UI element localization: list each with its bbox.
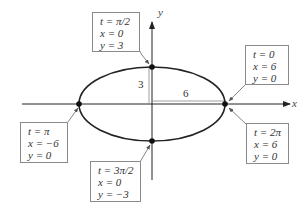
annotation-x: x = 6	[254, 138, 288, 150]
annotation-x: x = 0	[98, 176, 140, 188]
annotation-t: t = π/2	[100, 15, 139, 27]
annotation-y: y = 0	[253, 72, 288, 84]
leader-bottom	[140, 145, 150, 162]
leader-top	[139, 50, 149, 64]
annotation-x: x = 0	[100, 27, 139, 39]
point-bottom	[149, 138, 155, 144]
diagram-canvas	[0, 0, 302, 215]
annotation-t: t = 2π	[254, 126, 288, 138]
point-top	[149, 64, 155, 70]
leader-right0	[229, 84, 246, 101]
annotation-t-pi: t = π x = −6 y = 0	[20, 122, 68, 163]
annotation-t: t = 0	[253, 48, 288, 60]
leader-left	[68, 108, 78, 122]
y-axis-label: y	[158, 6, 163, 18]
annotation-t-2pi: t = 2π x = 6 y = 0	[246, 123, 289, 164]
annotation-t: t = 3π/2	[98, 164, 140, 176]
annotation-t-pi-over-2: t = π/2 x = 0 y = 3	[92, 12, 140, 52]
semi-major-label: 6	[183, 87, 189, 99]
annotation-y: y = 0	[254, 150, 288, 162]
annotation-y: y = −3	[98, 188, 140, 200]
annotation-y: y = 3	[100, 39, 139, 51]
point-left	[76, 101, 82, 107]
x-axis-label: x	[292, 97, 297, 109]
annotation-y: y = 0	[28, 149, 67, 161]
point-right	[222, 101, 228, 107]
annotation-x: x = 6	[253, 60, 288, 72]
annotation-t-0: t = 0 x = 6 y = 0	[245, 45, 289, 85]
annotation-x: x = −6	[28, 137, 67, 149]
annotation-t: t = π	[28, 125, 67, 137]
semi-minor-label: 3	[138, 78, 144, 90]
leader-right2	[229, 108, 246, 124]
annotation-t-3pi-over-2: t = 3π/2 x = 0 y = −3	[90, 161, 141, 202]
